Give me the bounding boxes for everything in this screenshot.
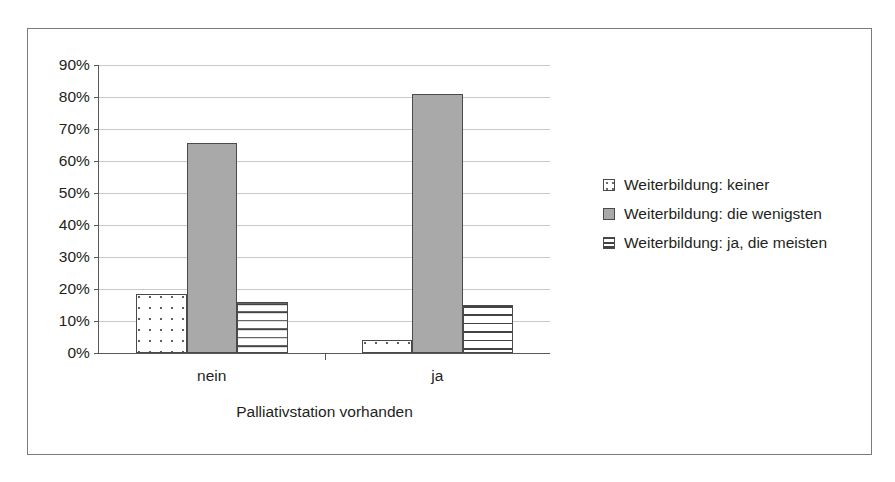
y-axis-tick-label: 70%	[59, 120, 90, 138]
chart-legend: Weiterbildung: keiner Weiterbildung: die…	[603, 170, 868, 257]
bar	[463, 305, 514, 353]
legend-item: Weiterbildung: ja, die meisten	[603, 228, 868, 257]
y-axis-tick-label: 90%	[59, 56, 90, 74]
legend-label-die-wenigsten: Weiterbildung: die wenigsten	[624, 205, 822, 223]
y-axis-tick-label: 10%	[59, 312, 90, 330]
bar	[187, 143, 238, 353]
y-axis-tick-mark	[94, 161, 99, 162]
plot-area: Palliativstation vorhanden 90%80%70%60%5…	[98, 65, 550, 354]
x-axis-category-label: nein	[197, 367, 226, 385]
legend-item: Weiterbildung: keiner	[603, 170, 868, 199]
y-axis-tick-label: 60%	[59, 152, 90, 170]
y-axis-tick-label: 0%	[67, 344, 90, 362]
gridline	[99, 193, 550, 194]
bar	[362, 340, 413, 353]
y-axis-tick-mark	[94, 321, 99, 322]
y-axis-tick-mark	[94, 289, 99, 290]
legend-swatch-keiner	[603, 179, 615, 191]
y-axis-tick-mark	[94, 193, 99, 194]
x-axis-tick-mark	[325, 353, 326, 360]
y-axis-tick-mark	[94, 225, 99, 226]
y-axis-tick-mark	[94, 65, 99, 66]
x-axis-category-label: ja	[431, 367, 443, 385]
legend-label-ja-die-meisten: Weiterbildung: ja, die meisten	[624, 234, 827, 252]
y-axis-tick-label: 40%	[59, 216, 90, 234]
legend-swatch-ja-die-meisten	[603, 237, 615, 249]
bar-chart: Palliativstation vorhanden 90%80%70%60%5…	[28, 29, 873, 456]
gridline	[99, 257, 550, 258]
y-axis-tick-label: 80%	[59, 88, 90, 106]
legend-label-keiner: Weiterbildung: keiner	[624, 176, 769, 194]
bar	[136, 294, 187, 353]
bar	[412, 94, 463, 353]
y-axis-tick-mark	[94, 257, 99, 258]
gridline	[99, 65, 550, 66]
legend-item: Weiterbildung: die wenigsten	[603, 199, 868, 228]
gridline	[99, 225, 550, 226]
y-axis-tick-label: 30%	[59, 248, 90, 266]
chart-figure-frame: Palliativstation vorhanden 90%80%70%60%5…	[27, 28, 872, 455]
y-axis-tick-mark	[94, 353, 99, 354]
y-axis-tick-mark	[94, 129, 99, 130]
gridline	[99, 289, 550, 290]
x-axis-title: Palliativstation vorhanden	[99, 403, 550, 421]
y-axis-tick-label: 20%	[59, 280, 90, 298]
y-axis-tick-label: 50%	[59, 184, 90, 202]
gridline	[99, 97, 550, 98]
gridline	[99, 129, 550, 130]
gridline	[99, 161, 550, 162]
bar	[237, 302, 288, 353]
y-axis-tick-mark	[94, 97, 99, 98]
legend-swatch-die-wenigsten	[603, 208, 615, 220]
